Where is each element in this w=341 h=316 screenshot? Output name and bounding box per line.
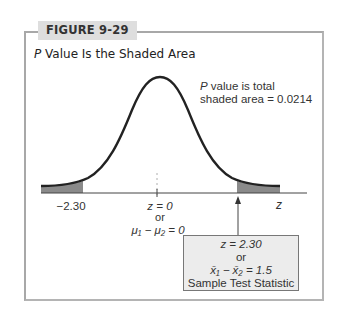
stat-line-or: or xyxy=(184,251,298,264)
annotation-text: value is total xyxy=(208,80,275,92)
sample-test-statistic-box: z = 2.30 or x̄₁ − x̄₂ = 1.5 Sample Test … xyxy=(183,235,299,291)
stat-line-xbar: x̄₁ − x̄₂ = 1.5 xyxy=(184,264,298,277)
stat-xbar-value: x̄₁ − x̄₂ = 1.5 xyxy=(210,264,272,276)
center-label-or: or xyxy=(155,211,165,223)
stat-line-z: z = 2.30 xyxy=(184,238,298,251)
axis-z-label: z xyxy=(275,198,282,212)
arrow-head-icon xyxy=(235,196,241,204)
stat-line-caption: Sample Test Statistic xyxy=(184,277,298,290)
stat-z-value: z = 2.30 xyxy=(220,238,261,250)
annotation-line1: P value is total xyxy=(200,80,275,92)
annotation-line2: shaded area = 0.0214 xyxy=(200,93,313,105)
left-tick-label: −2.30 xyxy=(56,200,85,212)
center-label-mu: μ₁ − μ₂ = 0 xyxy=(130,224,185,236)
